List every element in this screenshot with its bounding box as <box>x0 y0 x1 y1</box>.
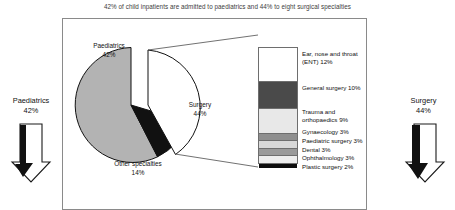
bar-segment-ophthalmology <box>259 155 297 163</box>
callout-right-label: Surgery <box>392 96 455 106</box>
bar-segment-plastic-surgery <box>259 163 297 169</box>
pie-label-other-name: Other specialties <box>98 160 178 169</box>
pie-label-other-value: 14% <box>98 169 178 178</box>
pie-label-paediatrics-value: 42% <box>78 51 140 60</box>
pie-label-paediatrics-name: Paediatrics <box>78 42 140 51</box>
down-arrow-icon <box>11 122 51 184</box>
pie-label-paediatrics: Paediatrics 42% <box>78 42 140 59</box>
legend-paediatric-surgery: Paediatric surgery 3% <box>302 137 363 145</box>
callout-right-value: 44% <box>392 106 455 116</box>
pie-slice-paediatrics <box>75 48 157 163</box>
callout-left: Paediatrics 42% <box>0 96 62 116</box>
legend-ophthalmology: Ophthalmology 3% <box>302 154 354 162</box>
pie-label-surgery-value: 44% <box>182 110 218 119</box>
bar-segment-trauma-orthopaedics <box>259 108 297 132</box>
callout-right: Surgery 44% <box>392 96 455 116</box>
connector-bottom <box>175 154 258 167</box>
bar-segment-general-surgery <box>259 81 297 108</box>
legend-general-surgery: General surgery 10% <box>302 84 360 92</box>
pie-label-surgery: Surgery 44% <box>182 101 218 118</box>
legend-ent: Ear, nose and throat (ENT) 12% <box>302 50 358 65</box>
callout-left-label: Paediatrics <box>0 96 62 106</box>
bar-segment-dental <box>259 148 297 156</box>
callout-left-value: 42% <box>0 106 62 116</box>
legend-plastic-surgery: Plastic surgery 2% <box>302 163 353 171</box>
bar-segment-gynaecology <box>259 133 297 141</box>
pie-svg <box>76 47 266 167</box>
callout-right-arrow <box>405 122 445 184</box>
pie-label-other-specialties: Other specialties 14% <box>98 160 178 177</box>
legend-gynaecology: Gynaecology 3% <box>302 128 349 136</box>
legend-dental: Dental 3% <box>302 146 331 154</box>
figure-title: 42% of child inpatients are admitted to … <box>0 3 455 10</box>
figure-canvas: 42% of child inpatients are admitted to … <box>0 0 455 210</box>
callout-left-arrow <box>11 122 51 184</box>
legend-trauma-orthopaedics: Trauma and orthopaedics 9% <box>302 108 348 123</box>
pie-chart <box>76 47 196 157</box>
bar-segment-paediatric-surgery <box>259 140 297 148</box>
surgery-breakdown-bar <box>258 47 298 164</box>
down-arrow-icon <box>405 122 445 184</box>
bar-segment-ent <box>259 48 297 81</box>
pie-label-surgery-name: Surgery <box>182 101 218 110</box>
